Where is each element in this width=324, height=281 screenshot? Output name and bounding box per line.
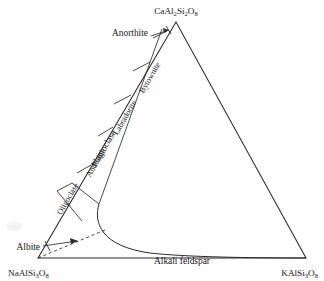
corner-label-orthoclase-formula: KAlSi3O8 [281,268,318,279]
corner-label-anorthite-formula: CaAl2Si2O8 [154,6,198,17]
albite-arrowhead [70,238,78,244]
albite-dashed-tieline [38,230,105,258]
ternary-feldspar-figure: CaAl2Si2O8 NaAlSi3O8 KAlSi3O8 Anorthite … [0,0,324,281]
callout-albite-label: Albite [17,242,40,252]
band-label-oligoclase: Oligoclase [55,181,80,216]
field-label-alkali-feldspar: Alkali feldspar [154,256,211,266]
callout-anorthite-label: Anorthite [112,28,148,38]
ternary-diagram-svg: CaAl2Si2O8 NaAlSi3O8 KAlSi3O8 Anorthite … [0,0,324,281]
corner-label-albite-formula: NaAlSi3O8 [8,268,50,279]
ternary-triangle-outline [38,22,306,258]
alkali-feldspar-solvus-curve [97,204,306,258]
